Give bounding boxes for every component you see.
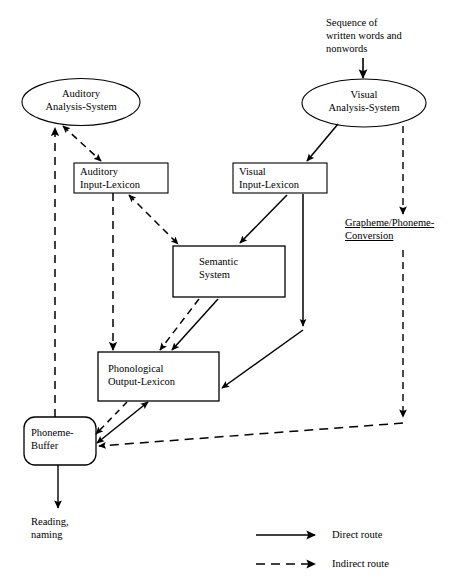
node-phonological-output-lexicon-label: Phonological Output-Lexicon: [108, 363, 218, 388]
edge-auditory-analysis-auditory-input-lexicon: [63, 126, 101, 161]
edge-phonological-output-lexicon-phoneme-buffer-solid: [97, 402, 148, 443]
node-semantic-system-label: Semantic System: [199, 256, 289, 281]
node-auditory-analysis-system-label: Auditory Analysis-System: [27, 88, 135, 113]
edge-visual-analysis-to-visual-input-lexicon: [307, 124, 338, 161]
edge-semantic-system-to-phonological-output-lexicon-solid: [172, 299, 218, 350]
diagram-canvas: Sequence of written words and nonwords A…: [0, 0, 461, 586]
node-visual-analysis-system-label: Visual Analysis-System: [312, 89, 416, 114]
edge-visual-input-lexicon-bend-to-phonological: [222, 330, 303, 388]
node-auditory-input-lexicon-label: Auditory Input-Lexicon: [80, 166, 170, 191]
input-stimulus-label: Sequence of written words and nonwords: [326, 16, 446, 55]
legend-direct-route-label: Direct route: [332, 529, 382, 540]
edge-visual-input-lexicon-to-semantic-system: [240, 195, 287, 243]
output-response-label: Reading, naming: [31, 515, 121, 541]
edge-auditory-input-lexicon-semantic-system: [129, 195, 178, 244]
node-visual-input-lexicon-label: Visual Input-Lexicon: [239, 166, 329, 191]
edge-phonological-output-lexicon-to-phoneme-buffer-dashed: [96, 402, 127, 434]
edge-grapheme-phoneme-to-phoneme-buffer: [99, 423, 403, 446]
legend-indirect-route-label: Indirect route: [332, 558, 389, 569]
node-phoneme-buffer-label: Phoneme- Buffer: [31, 427, 95, 452]
node-grapheme-phoneme-conversion-label: Grapheme/Phoneme- Conversion: [345, 217, 457, 242]
